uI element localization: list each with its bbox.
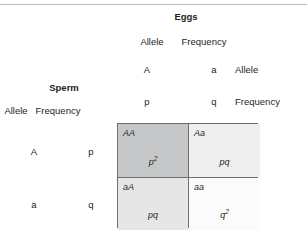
punnett-cell-aa-genotype: aa — [194, 182, 204, 193]
egg-column-1-allele: A — [144, 64, 150, 75]
punnett-cell-Aa: Aa pq — [189, 124, 260, 177]
row-legend-allele: Allele — [235, 64, 258, 75]
punnett-cell-aA-frequency: pq — [118, 210, 188, 221]
sperm-row-1-allele: A — [31, 146, 37, 157]
punnett-cell-AA-frequency: p2 — [118, 157, 188, 168]
punnett-cell-AA: AA p2 — [118, 124, 188, 177]
eggs-title: Eggs — [174, 11, 197, 22]
punnett-cell-aa: aa q2 — [189, 178, 260, 230]
sperm-row-1-frequency: p — [88, 146, 93, 157]
sperm-title: Sperm — [49, 82, 79, 93]
punnett-cell-AA-genotype: AA — [123, 128, 135, 139]
punnett-grid: AA p2 Aa pq aA pq aa q2 — [117, 123, 258, 228]
sperm-allele-header: Allele — [4, 105, 27, 116]
punnett-cell-Aa-frequency: pq — [189, 157, 260, 168]
punnett-cell-aA-genotype: aA — [123, 182, 134, 193]
punnett-cell-aA: aA pq — [118, 178, 188, 230]
punnett-cell-Aa-genotype: Aa — [194, 128, 205, 139]
egg-column-2-allele: a — [211, 64, 216, 75]
sperm-row-2-frequency: q — [88, 199, 93, 210]
egg-column-1-frequency: p — [144, 96, 149, 107]
punnett-cell-aa-frequency: q2 — [189, 210, 260, 221]
punnett-square-figure: Eggs Allele Frequency A p a q Allele Fre… — [0, 0, 307, 235]
eggs-frequency-header: Frequency — [182, 36, 227, 47]
row-legend-frequency: Frequency — [235, 96, 280, 107]
sperm-row-2-allele: a — [31, 199, 36, 210]
egg-column-2-frequency: q — [211, 96, 216, 107]
top-divider — [0, 4, 307, 5]
eggs-allele-header: Allele — [140, 36, 163, 47]
sperm-frequency-header: Frequency — [36, 105, 81, 116]
